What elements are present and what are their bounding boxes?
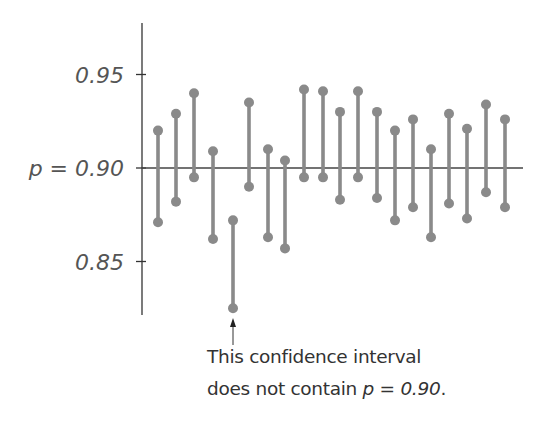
upper-endpoint <box>408 114 418 124</box>
confidence-interval <box>390 126 400 226</box>
lower-endpoint <box>189 172 199 182</box>
upper-endpoint <box>481 99 491 109</box>
annotation-line2-math: p = 0.90 <box>363 378 441 399</box>
upper-endpoint <box>189 88 199 98</box>
confidence-interval <box>444 109 454 209</box>
annotation-text-line2: does not contain p = 0.90. <box>207 378 446 399</box>
lower-endpoint <box>318 172 328 182</box>
upper-endpoint <box>263 144 273 154</box>
lower-endpoint <box>408 202 418 212</box>
confidence-interval <box>280 156 290 254</box>
upper-endpoint <box>335 107 345 117</box>
confidence-interval <box>335 107 345 205</box>
confidence-interval <box>462 124 472 224</box>
lower-endpoint <box>426 232 436 242</box>
upper-endpoint <box>500 114 510 124</box>
lower-endpoint <box>208 234 218 244</box>
confidence-interval <box>408 114 418 212</box>
lower-endpoint <box>171 197 181 207</box>
y-axis: 0.95p = 0.900.85 <box>28 23 146 315</box>
upper-endpoint <box>153 126 163 136</box>
upper-endpoint <box>228 215 238 225</box>
lower-endpoint <box>390 215 400 225</box>
intervals-group <box>153 84 510 313</box>
upper-endpoint <box>208 146 218 156</box>
upper-endpoint <box>426 144 436 154</box>
annotation-line2-suffix: . <box>440 378 446 399</box>
annotation-text-line1: This confidence interval <box>207 346 421 367</box>
upper-endpoint <box>462 124 472 134</box>
y-tick-label: 0.95 <box>75 63 124 88</box>
lower-endpoint <box>280 243 290 253</box>
lower-endpoint <box>335 195 345 205</box>
confidence-interval <box>263 144 273 242</box>
confidence-interval <box>500 114 510 212</box>
annotation-line2-prefix: does not contain <box>207 378 363 399</box>
arrow-head-icon <box>230 318 236 327</box>
confidence-interval <box>153 126 163 228</box>
confidence-interval <box>426 144 436 242</box>
upper-endpoint <box>244 98 254 108</box>
upper-endpoint <box>171 109 181 119</box>
confidence-interval <box>244 98 254 192</box>
annotation-arrow <box>230 318 236 345</box>
lower-endpoint <box>481 187 491 197</box>
confidence-interval <box>372 107 382 203</box>
lower-endpoint <box>500 202 510 212</box>
lower-endpoint <box>228 303 238 313</box>
confidence-interval <box>208 146 218 244</box>
confidence-interval <box>171 109 181 207</box>
lower-endpoint <box>372 193 382 203</box>
confidence-interval <box>481 99 491 197</box>
lower-endpoint <box>299 172 309 182</box>
upper-endpoint <box>390 126 400 136</box>
lower-endpoint <box>263 232 273 242</box>
upper-endpoint <box>353 86 363 96</box>
upper-endpoint <box>299 84 309 94</box>
lower-endpoint <box>462 213 472 223</box>
annotation-line1-text: This confidence interval <box>207 346 421 367</box>
y-tick-label: 0.85 <box>75 250 124 275</box>
y-tick-label: p = 0.90 <box>28 156 124 181</box>
confidence-interval <box>228 215 238 313</box>
upper-endpoint <box>318 86 328 96</box>
lower-endpoint <box>353 172 363 182</box>
upper-endpoint <box>372 107 382 117</box>
upper-endpoint <box>444 109 454 119</box>
lower-endpoint <box>244 182 254 192</box>
lower-endpoint <box>153 217 163 227</box>
upper-endpoint <box>280 156 290 166</box>
lower-endpoint <box>444 199 454 209</box>
